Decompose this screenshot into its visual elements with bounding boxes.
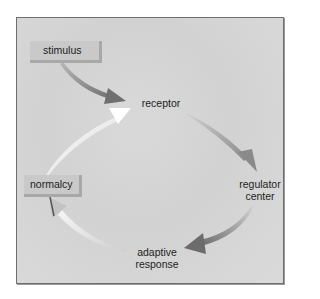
arrow-stimulus-to-receptor — [60, 62, 126, 104]
normalcy-label: normalcy — [30, 178, 73, 190]
stimulus-box: stimulus — [30, 41, 102, 63]
regulator-center-label: regulator center — [232, 178, 288, 202]
arrow-adaptive-to-normalcy — [50, 197, 126, 252]
stimulus-label: stimulus — [43, 44, 82, 56]
arrow-normalcy-to-receptor — [44, 108, 131, 179]
arrow-receptor-to-regulator — [186, 113, 257, 172]
arrow-regulator-to-adaptive — [184, 205, 254, 254]
adaptive-line1: adaptive — [126, 246, 188, 258]
receptor-label: receptor — [136, 97, 186, 109]
regulator-line1: regulator — [232, 178, 288, 190]
adaptive-response-label: adaptive response — [126, 246, 188, 270]
normalcy-box: normalcy — [24, 175, 82, 197]
adaptive-line2: response — [126, 258, 188, 270]
regulator-line2: center — [232, 190, 288, 202]
